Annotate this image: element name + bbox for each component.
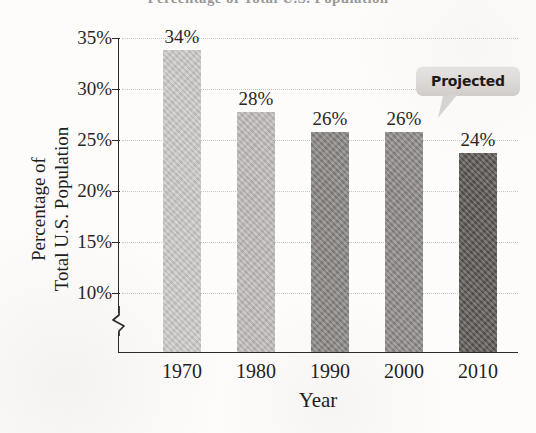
bar-2000[interactable]: [385, 132, 423, 352]
bar-value-2000: 26%: [372, 109, 436, 128]
y-axis-title-line1: Percentage of: [27, 64, 50, 354]
ytick-35: 35%: [46, 28, 112, 47]
bar-1990[interactable]: [311, 132, 349, 352]
projected-callout-label: Projected: [416, 66, 520, 96]
xtick-label-1990: 1990: [292, 360, 368, 382]
projected-callout: Projected: [416, 66, 520, 96]
bar-chart: 35% 30% 25% 20% 15% 10% 34% 28% 26% 26% …: [0, 0, 536, 433]
x-axis-title: Year: [118, 388, 518, 412]
bar-1970[interactable]: [163, 50, 201, 352]
ytick-label-35: 35%: [56, 28, 112, 47]
bar-value-1990: 26%: [298, 109, 362, 128]
bar-value-2010: 24%: [446, 130, 510, 149]
bar-value-1970: 34%: [150, 27, 214, 46]
xtick-label-2000: 2000: [366, 360, 442, 382]
bar-2010[interactable]: [459, 153, 497, 352]
xtick-label-1970: 1970: [144, 360, 220, 382]
bar-1980[interactable]: [237, 112, 275, 352]
axis-break-icon: [110, 306, 128, 336]
xtick-label-2010: 2010: [440, 360, 516, 382]
y-axis-spine-upper: [118, 38, 119, 313]
x-axis-baseline: [118, 352, 518, 353]
y-axis-title: Percentage of Total U.S. Population: [27, 64, 73, 354]
projected-callout-tail-icon: [436, 94, 458, 118]
bar-value-1980: 28%: [224, 89, 288, 108]
xtick-label-1980: 1980: [218, 360, 294, 382]
y-axis-title-line2: Total U.S. Population: [50, 64, 73, 354]
